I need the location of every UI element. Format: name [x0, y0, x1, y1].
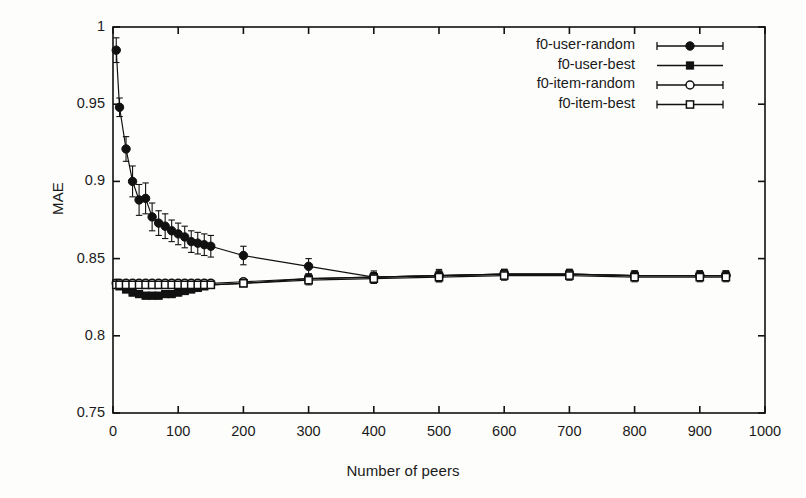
y-tick-label: 0.8: [45, 327, 105, 343]
x-tick-label: 500: [409, 423, 469, 439]
x-tick-label: 900: [670, 423, 730, 439]
x-tick-label: 300: [279, 423, 339, 439]
x-tick-label: 1000: [735, 423, 795, 439]
legend-sample-f0-user-random: [657, 42, 723, 50]
x-tick-label: 0: [83, 423, 143, 439]
x-tick-label: 800: [605, 423, 665, 439]
x-tick-label: 700: [539, 423, 599, 439]
legend-sample-f0-item-random: [657, 81, 723, 89]
legend-sample-f0-item-best: [657, 101, 723, 109]
chart-figure: MAE Number of peers 10.950.90.850.80.75 …: [0, 0, 806, 498]
x-tick-label: 600: [474, 423, 534, 439]
x-tick-label: 100: [148, 423, 208, 439]
x-tick-label: 200: [213, 423, 273, 439]
legend-label-f0-user-best: f0-user-best: [415, 56, 635, 72]
legend-sample-f0-user-best: [657, 62, 723, 69]
y-tick-label: 0.9: [45, 172, 105, 188]
x-tick-label: 400: [344, 423, 404, 439]
y-axis-title: MAE: [49, 139, 66, 259]
legend-label-f0-user-random: f0-user-random: [415, 36, 635, 52]
y-tick-label: 0.75: [45, 404, 105, 420]
y-tick-label: 1: [45, 18, 105, 34]
legend-label-f0-item-random: f0-item-random: [415, 75, 635, 91]
y-tick-label: 0.95: [45, 95, 105, 111]
x-axis-title: Number of peers: [0, 462, 806, 479]
legend-label-f0-item-best: f0-item-best: [415, 95, 635, 111]
y-tick-label: 0.85: [45, 250, 105, 266]
